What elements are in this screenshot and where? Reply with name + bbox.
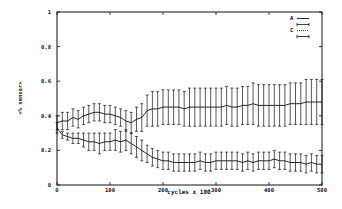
- x-axis-label: cycles x 100: [167, 188, 211, 196]
- legend-label-c: C: [290, 27, 293, 33]
- series-c: [56, 123, 324, 173]
- y-tick-label: 0: [48, 182, 51, 188]
- x-tick-label: 400: [264, 187, 274, 193]
- series-a: [56, 79, 324, 133]
- y-tick-label: 1: [48, 9, 52, 15]
- legend-label-a: A: [290, 15, 294, 21]
- legend-errorbar-icon: [297, 23, 309, 26]
- x-tick-label: 0: [55, 187, 58, 193]
- y-tick-label: 0.4: [41, 113, 52, 119]
- chart-canvas: 010020030040050000.20.40.60.81 A C cycle…: [0, 0, 342, 209]
- x-tick-label: 100: [105, 187, 115, 193]
- x-tick-label: 300: [211, 187, 221, 193]
- line-chart: 010020030040050000.20.40.60.81 A C cycle…: [0, 0, 342, 209]
- legend: A C: [290, 15, 309, 38]
- y-tick-label: 0.8: [41, 44, 51, 50]
- y-tick-label: 0.2: [41, 147, 51, 153]
- y-tick-label: 0.6: [41, 78, 52, 84]
- x-tick-label: 500: [317, 187, 327, 193]
- y-axis-label: <% sensor>: [17, 81, 23, 115]
- legend-errorbar-icon: [297, 35, 309, 38]
